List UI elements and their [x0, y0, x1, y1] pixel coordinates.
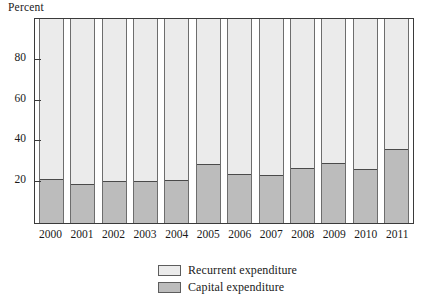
y-axis-tick-60: 60	[35, 100, 41, 101]
y-axis-tick-80: 80	[35, 59, 41, 60]
bar-segment-capital	[71, 185, 94, 223]
bar-segment-capital	[103, 182, 126, 223]
bar-segment-capital	[385, 150, 408, 223]
x-axis-tick-label-2001: 2001	[70, 228, 95, 240]
y-axis-tick-label-80: 80	[15, 52, 27, 64]
x-axis-tick-label-2000: 2000	[38, 228, 63, 240]
bar-segment-recurrent	[228, 19, 251, 175]
bar-2004	[164, 19, 189, 223]
x-axis-tick-label-2009: 2009	[322, 228, 347, 240]
bar-2003	[133, 19, 158, 223]
x-axis-tick-label-2003: 2003	[133, 228, 158, 240]
bar-2000	[39, 19, 64, 223]
y-axis-tick-20: 20	[35, 181, 41, 182]
bar-2002	[102, 19, 127, 223]
bar-segment-capital	[291, 169, 314, 223]
x-axis-tick-label-2011: 2011	[385, 228, 410, 240]
x-axis-tick-label-2005: 2005	[196, 228, 221, 240]
legend-item-recurrent: Recurrent expenditure	[158, 263, 297, 278]
legend-item-capital: Capital expenditure	[158, 280, 297, 295]
bar-segment-recurrent	[385, 19, 408, 150]
legend-label: Recurrent expenditure	[188, 263, 297, 278]
y-axis-tick-label-40: 40	[15, 133, 27, 145]
bar-segment-capital	[260, 176, 283, 223]
legend-label: Capital expenditure	[188, 280, 284, 295]
bar-2005	[196, 19, 221, 223]
bar-segment-recurrent	[134, 19, 157, 182]
legend: Recurrent expenditureCapital expenditure	[158, 263, 297, 297]
plot-area: 80604020	[34, 18, 414, 224]
bar-segment-recurrent	[103, 19, 126, 182]
bar-segment-recurrent	[322, 19, 345, 164]
bar-2010	[353, 19, 378, 223]
bar-segment-recurrent	[71, 19, 94, 185]
legend-swatch-icon	[158, 282, 181, 293]
x-axis-tick-label-2007: 2007	[259, 228, 284, 240]
bar-segment-capital	[40, 180, 63, 223]
bar-segment-capital	[228, 175, 251, 223]
bar-2007	[259, 19, 284, 223]
x-axis-tick-label-2006: 2006	[227, 228, 252, 240]
bar-segment-recurrent	[291, 19, 314, 169]
bar-2009	[321, 19, 346, 223]
bar-segment-capital	[197, 165, 220, 223]
x-axis-tick-label-2010: 2010	[353, 228, 378, 240]
bar-2006	[227, 19, 252, 223]
bar-segment-recurrent	[197, 19, 220, 165]
bar-segment-capital	[165, 181, 188, 223]
bar-segment-recurrent	[40, 19, 63, 180]
x-axis-tick-label-2002: 2002	[101, 228, 126, 240]
bar-segment-capital	[322, 164, 345, 223]
bar-2001	[70, 19, 95, 223]
legend-swatch-icon	[158, 265, 181, 276]
y-axis-tick-40: 40	[35, 140, 41, 141]
y-axis-tick-label-20: 20	[15, 174, 27, 186]
bar-group	[35, 19, 413, 223]
y-axis-title: Percent	[8, 1, 44, 13]
bar-segment-recurrent	[165, 19, 188, 181]
x-axis-tick-label-2008: 2008	[290, 228, 315, 240]
bar-segment-capital	[354, 170, 377, 223]
bar-segment-recurrent	[354, 19, 377, 170]
x-axis-tick-label-2004: 2004	[164, 228, 189, 240]
bar-segment-capital	[134, 182, 157, 223]
bar-segment-recurrent	[260, 19, 283, 176]
y-axis-tick-label-60: 60	[15, 93, 27, 105]
bar-2011	[384, 19, 409, 223]
bar-2008	[290, 19, 315, 223]
x-axis-tick-labels: 2000200120022003200420052006200720082009…	[34, 228, 414, 240]
